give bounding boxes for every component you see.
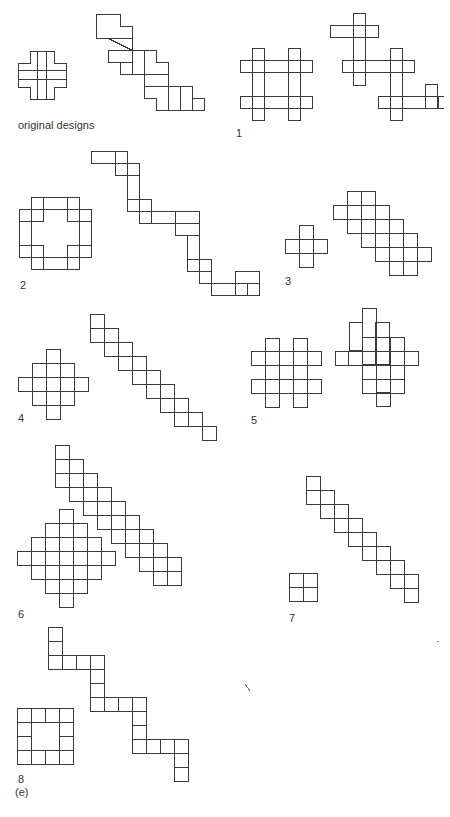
tile-piece xyxy=(236,272,260,284)
tile-piece xyxy=(241,97,313,109)
tile-piece xyxy=(19,52,67,100)
tile-cell xyxy=(18,723,32,737)
tile-cell xyxy=(140,544,154,558)
tile-cell xyxy=(60,751,74,765)
tile-cell xyxy=(133,712,147,726)
tile-piece xyxy=(80,222,92,246)
tile-cell xyxy=(349,519,363,533)
tile-cell xyxy=(133,726,147,740)
tile-piece xyxy=(294,339,308,408)
tile-cell xyxy=(362,220,376,234)
tile-cell xyxy=(74,524,88,538)
tile-piece xyxy=(363,309,377,365)
tile-cell xyxy=(405,589,419,603)
tile-cell xyxy=(349,533,363,547)
tile-cell xyxy=(390,262,404,276)
tile-piece xyxy=(44,198,68,210)
tile-cell xyxy=(46,751,60,765)
tile-cell xyxy=(175,768,189,782)
tile-cell xyxy=(391,561,405,575)
tile-cell xyxy=(363,547,377,561)
tile-cell xyxy=(140,530,154,544)
tile-piece xyxy=(266,339,280,408)
tile-cell xyxy=(47,350,61,364)
tile-cell xyxy=(290,574,304,588)
tile-edge xyxy=(437,641,439,642)
tile-cell xyxy=(418,248,432,262)
tile-cell xyxy=(376,206,390,220)
tile-cell xyxy=(321,505,335,519)
tile-piece xyxy=(391,49,403,121)
tile-cell xyxy=(168,572,182,586)
tile-cell xyxy=(307,477,321,491)
tile-cell xyxy=(77,656,91,670)
tile-cell xyxy=(363,366,377,380)
tile-piece xyxy=(20,222,32,246)
design-1-crosses xyxy=(331,14,445,121)
design-2-band xyxy=(92,152,260,296)
tile-cell xyxy=(161,740,175,754)
tile-cell xyxy=(74,580,88,594)
tile-piece xyxy=(44,258,68,270)
label-design-8: 8 xyxy=(18,774,24,785)
tile-cell xyxy=(147,740,161,754)
design-6-diamond xyxy=(18,510,116,608)
tile-cell xyxy=(91,656,105,670)
design-1-grid xyxy=(241,49,313,121)
tile-cell xyxy=(377,380,391,394)
tile-piece xyxy=(128,176,140,200)
tile-cell xyxy=(363,338,377,352)
tile-cell xyxy=(391,352,405,366)
tile-piece xyxy=(289,49,301,121)
design-4-diamond xyxy=(19,350,89,420)
tile-piece xyxy=(92,152,116,164)
tile-cell xyxy=(98,516,112,530)
tile-cell xyxy=(175,413,189,427)
tile-piece xyxy=(97,15,133,39)
tile-cell xyxy=(363,352,377,366)
tile-cell xyxy=(391,366,405,380)
panel-label: (e) xyxy=(15,787,28,798)
tile-cell xyxy=(377,366,391,380)
label-design-4: 4 xyxy=(18,413,24,424)
design-3-band xyxy=(334,192,432,276)
tile-cell xyxy=(74,538,88,552)
tile-piece xyxy=(253,49,265,121)
tile-cell xyxy=(300,254,314,268)
tile-piece xyxy=(248,284,260,296)
tile-cell xyxy=(363,380,377,394)
tile-cell xyxy=(63,656,77,670)
tile-cell xyxy=(404,248,418,262)
tile-cell xyxy=(175,740,189,754)
tile-cell xyxy=(18,751,32,765)
tile-piece xyxy=(212,284,236,296)
tile-cell xyxy=(102,552,116,566)
tile-cell xyxy=(348,206,362,220)
tile-cell xyxy=(335,505,349,519)
design-2-ring xyxy=(20,198,92,270)
tile-cell xyxy=(189,413,203,427)
tile-cell xyxy=(390,248,404,262)
tile-cell xyxy=(376,234,390,248)
tile-cell xyxy=(60,709,74,723)
tile-cell xyxy=(60,510,74,524)
tile-cell xyxy=(147,385,161,399)
tile-cell xyxy=(363,533,377,547)
tile-cell xyxy=(98,502,112,516)
tile-piece xyxy=(241,61,313,73)
tile-cell xyxy=(84,488,98,502)
tile-cell xyxy=(404,234,418,248)
tile-cell xyxy=(46,709,60,723)
tile-cell xyxy=(154,572,168,586)
tile-cell xyxy=(70,488,84,502)
design-8-band xyxy=(49,628,189,782)
tile-cell xyxy=(19,378,33,392)
tile-cell xyxy=(60,737,74,751)
tile-piece xyxy=(145,87,169,111)
tile-cell xyxy=(140,558,154,572)
tile-cell xyxy=(300,226,314,240)
tile-piece xyxy=(350,323,363,351)
tile-piece xyxy=(241,61,313,73)
tile-cell xyxy=(56,460,70,474)
tile-cell xyxy=(91,315,105,329)
